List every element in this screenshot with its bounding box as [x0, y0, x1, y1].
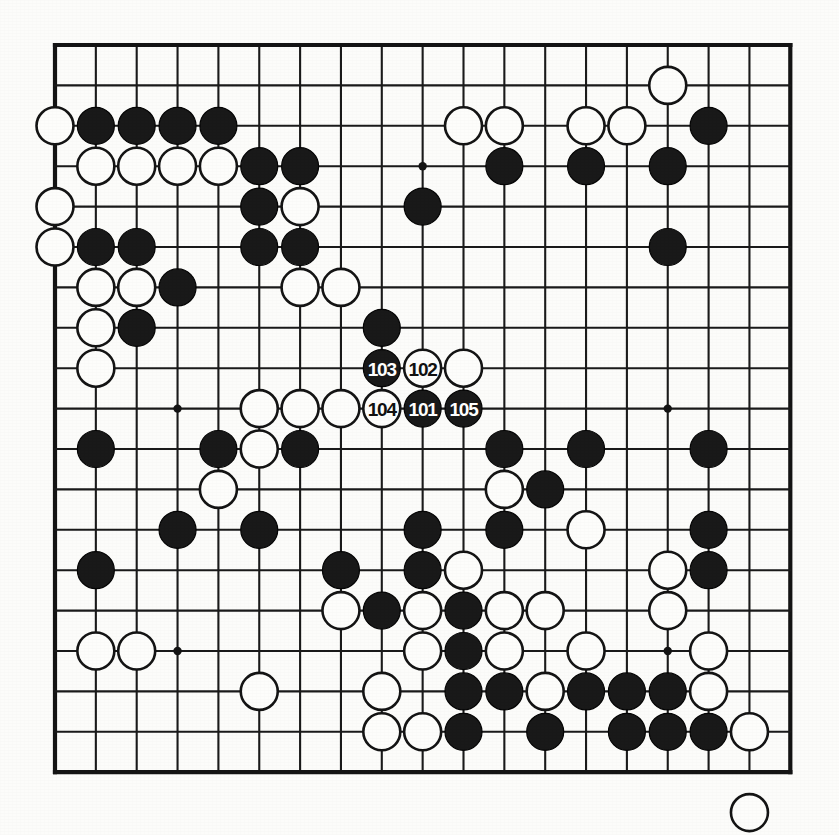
- stone-white-c6-r4[interactable]: [282, 188, 319, 225]
- stone-black-c14-r17[interactable]: [608, 713, 645, 750]
- stone-black-c10-r9[interactable]: 105: [445, 390, 482, 427]
- stone-white-c7-r9[interactable]: [322, 390, 359, 427]
- stone-black-c8-r7[interactable]: [363, 309, 400, 346]
- stone-black-c11-r16[interactable]: [486, 673, 523, 710]
- stone-white-c4-r11[interactable]: [200, 471, 237, 508]
- stone-white-c11-r11[interactable]: [486, 471, 523, 508]
- stone-black-c13-r16[interactable]: [568, 673, 605, 710]
- stone-white-c1-r7[interactable]: [77, 309, 114, 346]
- stone-black-c8-r14[interactable]: [363, 592, 400, 629]
- stone-white-c9-r15[interactable]: [404, 633, 441, 670]
- stone-black-c11-r10[interactable]: [486, 431, 523, 468]
- stone-black-c5-r4[interactable]: [241, 188, 278, 225]
- stone-white-c8-r17[interactable]: [363, 713, 400, 750]
- stone-black-c11-r3[interactable]: [486, 148, 523, 185]
- stone-black-c15-r5[interactable]: [649, 229, 686, 266]
- stone-white-c10-r2[interactable]: [445, 107, 482, 144]
- stone-black-c10-r16[interactable]: [445, 673, 482, 710]
- stone-black-c1-r13[interactable]: [77, 552, 114, 589]
- stone-white-c12-r14[interactable]: [527, 592, 564, 629]
- stone-white-c15-r13[interactable]: [649, 552, 686, 589]
- stone-white-c10-r8[interactable]: [445, 350, 482, 387]
- stone-white-c1-r15[interactable]: [77, 633, 114, 670]
- stone-white-c10-r13[interactable]: [445, 552, 482, 589]
- stone-white-c11-r14[interactable]: [486, 592, 523, 629]
- stone-black-c6-r10[interactable]: [282, 431, 319, 468]
- stone-black-c16-r13[interactable]: [690, 552, 727, 589]
- stone-white-c7-r6[interactable]: [322, 269, 359, 306]
- stone-white-c12-r16[interactable]: [527, 673, 564, 710]
- stone-white-c14-r2[interactable]: [608, 107, 645, 144]
- stone-white-c9-r14[interactable]: [404, 592, 441, 629]
- stone-black-c3-r12[interactable]: [159, 511, 196, 548]
- stone-white-c7-r14[interactable]: [322, 592, 359, 629]
- stone-black-c3-r6[interactable]: [159, 269, 196, 306]
- stone-black-c9-r4[interactable]: [404, 188, 441, 225]
- stone-white-c13-r12[interactable]: [568, 511, 605, 548]
- stone-black-c10-r17[interactable]: [445, 713, 482, 750]
- stone-white-c9-r8[interactable]: 102: [404, 350, 441, 387]
- stone-black-c5-r3[interactable]: [241, 148, 278, 185]
- stone-white-c1-r8[interactable]: [77, 350, 114, 387]
- stone-black-c2-r7[interactable]: [118, 309, 155, 346]
- stone-white-c2-r6[interactable]: [118, 269, 155, 306]
- goban-svg[interactable]: 103102104101105: [0, 0, 839, 835]
- stone-white-c15-r14[interactable]: [649, 592, 686, 629]
- stone-white-c2-r3[interactable]: [118, 148, 155, 185]
- stone-white-c0-r4[interactable]: [37, 188, 74, 225]
- stone-black-c4-r2[interactable]: [200, 107, 237, 144]
- stone-white-c13-r15[interactable]: [568, 633, 605, 670]
- stone-white-c8-r16[interactable]: [363, 673, 400, 710]
- stone-white-c9-r17[interactable]: [404, 713, 441, 750]
- stone-black-c15-r16[interactable]: [649, 673, 686, 710]
- stone-white-c16-r16[interactable]: [690, 673, 727, 710]
- stone-white-c3-r3[interactable]: [159, 148, 196, 185]
- stone-white-c13-r2[interactable]: [568, 107, 605, 144]
- stone-white-c1-r3[interactable]: [77, 148, 114, 185]
- stone-white-c11-r2[interactable]: [486, 107, 523, 144]
- stone-black-c16-r10[interactable]: [690, 431, 727, 468]
- stone-black-c1-r10[interactable]: [77, 431, 114, 468]
- stone-black-c13-r10[interactable]: [568, 431, 605, 468]
- stone-black-c12-r11[interactable]: [527, 471, 564, 508]
- stone-white-c8-r9[interactable]: 104: [363, 390, 400, 427]
- stone-black-c6-r5[interactable]: [282, 229, 319, 266]
- stone-white-c6-r6[interactable]: [282, 269, 319, 306]
- stone-black-c9-r13[interactable]: [404, 552, 441, 589]
- stone-black-c4-r10[interactable]: [200, 431, 237, 468]
- stone-black-c11-r12[interactable]: [486, 511, 523, 548]
- stone-black-c7-r13[interactable]: [322, 552, 359, 589]
- stone-white-c0-r2[interactable]: [37, 107, 74, 144]
- stone-black-c3-r2[interactable]: [159, 107, 196, 144]
- stone-white-c4-r3[interactable]: [200, 148, 237, 185]
- stone-white-c17-r19[interactable]: [731, 794, 768, 831]
- stone-white-c1-r6[interactable]: [77, 269, 114, 306]
- stone-white-c6-r9[interactable]: [282, 390, 319, 427]
- stone-black-c16-r2[interactable]: [690, 107, 727, 144]
- stone-black-c5-r12[interactable]: [241, 511, 278, 548]
- stone-black-c13-r3[interactable]: [568, 148, 605, 185]
- stone-black-c1-r2[interactable]: [77, 107, 114, 144]
- go-board[interactable]: 103102104101105: [0, 0, 839, 835]
- stone-white-c0-r5[interactable]: [37, 229, 74, 266]
- stone-black-c2-r5[interactable]: [118, 229, 155, 266]
- stone-black-c16-r12[interactable]: [690, 511, 727, 548]
- stone-black-c8-r8[interactable]: 103: [363, 350, 400, 387]
- stone-black-c6-r3[interactable]: [282, 148, 319, 185]
- stone-black-c9-r12[interactable]: [404, 511, 441, 548]
- stone-white-c5-r9[interactable]: [241, 390, 278, 427]
- stone-black-c2-r2[interactable]: [118, 107, 155, 144]
- stone-black-c5-r5[interactable]: [241, 229, 278, 266]
- stone-black-c15-r3[interactable]: [649, 148, 686, 185]
- stone-white-c17-r17[interactable]: [731, 713, 768, 750]
- stone-black-c16-r17[interactable]: [690, 713, 727, 750]
- stone-white-c11-r15[interactable]: [486, 633, 523, 670]
- stone-black-c15-r17[interactable]: [649, 713, 686, 750]
- stone-white-c16-r15[interactable]: [690, 633, 727, 670]
- stone-black-c1-r5[interactable]: [77, 229, 114, 266]
- stone-white-c5-r16[interactable]: [241, 673, 278, 710]
- stone-black-c10-r15[interactable]: [445, 633, 482, 670]
- stone-black-c12-r17[interactable]: [527, 713, 564, 750]
- stone-white-c5-r10[interactable]: [241, 431, 278, 468]
- stone-white-c2-r15[interactable]: [118, 633, 155, 670]
